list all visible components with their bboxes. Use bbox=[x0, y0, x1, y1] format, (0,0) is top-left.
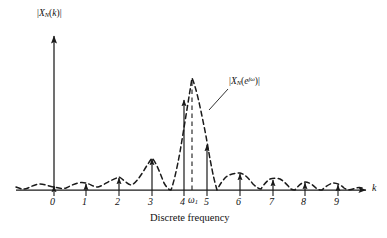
omega1-label: ω1 bbox=[188, 195, 198, 205]
x-tick-label-0: 0 bbox=[50, 196, 55, 207]
x-tick-label-8: 8 bbox=[301, 196, 306, 207]
x-tick-label-5: 5 bbox=[204, 196, 209, 207]
x-axis-variable-label: k bbox=[372, 182, 376, 193]
figure-caption: Discrete frequency bbox=[150, 212, 230, 223]
x-tick-label-7: 7 bbox=[269, 196, 274, 207]
x-tick-label-4: 4 bbox=[180, 196, 185, 207]
dtft-envelope-curve bbox=[16, 78, 362, 190]
x-tick-label-1: 1 bbox=[82, 196, 87, 207]
x-tick-label-2: 2 bbox=[115, 196, 120, 207]
dft-sample-stems bbox=[54, 100, 338, 190]
curve-label-leader-line bbox=[209, 89, 228, 110]
dtft-curve-label: |XN(ejω)| bbox=[229, 75, 260, 86]
x-tick-label-9: 9 bbox=[334, 196, 339, 207]
x-tick-label-6: 6 bbox=[236, 196, 241, 207]
x-tick-label-3: 3 bbox=[148, 196, 153, 207]
y-axis-label: |XN(k)| bbox=[37, 8, 62, 18]
figure-root: |XN(k)| |XN(ejω)| 0 1 2 3 4 5 6 7 8 9 ω1… bbox=[0, 0, 387, 238]
